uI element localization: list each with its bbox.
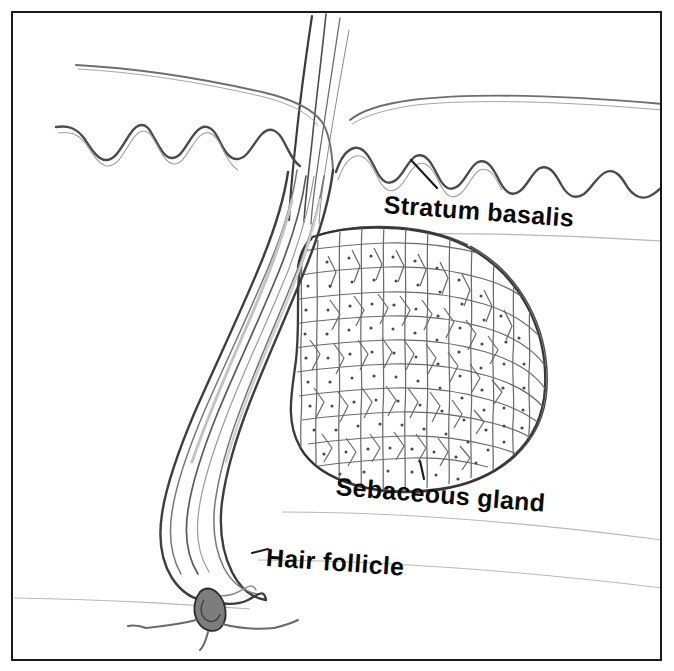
stratum-basalis-line (56, 125, 663, 198)
figure-container: Stratum basalis Sebaceous gland Hair fol… (0, 0, 674, 671)
sebaceous-gland (291, 226, 547, 494)
dermal-papilla (128, 589, 298, 650)
stratum-basalis-leader (411, 160, 437, 188)
